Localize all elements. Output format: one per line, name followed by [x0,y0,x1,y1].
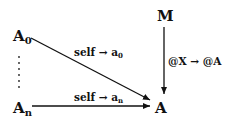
vertical-dots [18,56,20,88]
commutative-diagram: M A0 An A self → a0 self → an @X → @A [0,0,239,120]
edge-label-a0-sub: 0 [118,51,123,60]
edge-label-an-sub: n [118,96,123,105]
edge-label-m: @X → @A [168,56,221,67]
node-a-label: A [155,99,167,117]
edge-label-a0: self → a0 [74,47,123,61]
edge-label-an: self → an [74,92,123,106]
node-a0-label: A [13,27,25,45]
edge-label-an-text: self → a [74,91,118,103]
edge-label-m-text: @X → @A [168,55,221,67]
node-m-label: M [157,7,174,25]
edge-label-a0-text: self → a [74,46,118,58]
node-a0: A0 [13,29,32,48]
node-a0-subscript: 0 [25,35,32,46]
node-a: A [155,101,167,116]
node-an: An [13,101,32,120]
node-m: M [157,9,174,24]
node-an-subscript: n [25,107,32,118]
node-an-label: A [13,99,25,117]
